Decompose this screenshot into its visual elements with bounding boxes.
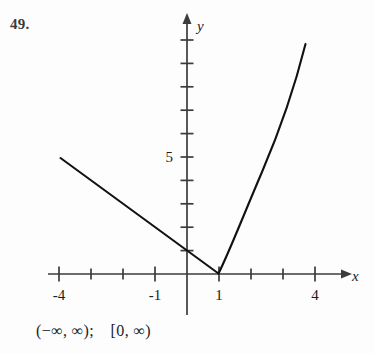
x-axis-arrowhead [341, 270, 352, 279]
x-axis-label: x [351, 268, 359, 284]
answer-text: (−∞, ∞); [0, ∞) [36, 322, 151, 340]
y-axis-label: y [195, 18, 204, 34]
y-tick-label-5: 5 [166, 149, 174, 165]
x-tick-label-1: 1 [215, 287, 223, 303]
textbook-answer-figure: 49. [0, 0, 374, 354]
graph-figure: x y -4 -1 1 4 5 [0, 0, 374, 330]
right-branch-curve [219, 44, 306, 274]
left-branch-line [61, 158, 219, 274]
x-tick-label-minus1: -1 [149, 287, 162, 303]
x-tick-label-4: 4 [311, 287, 319, 303]
x-tick-label-minus4: -4 [53, 287, 66, 303]
y-axis-arrowhead [183, 13, 192, 24]
